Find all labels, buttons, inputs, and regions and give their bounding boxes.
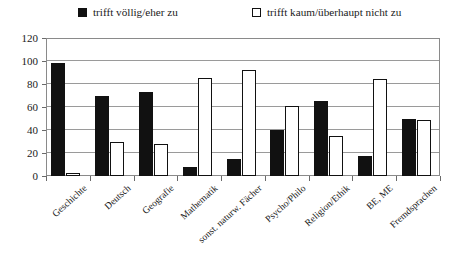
legend-entry-label: trifft völlig/eher zu: [93, 6, 178, 18]
x-tick-mark: [396, 176, 397, 181]
bar-group: [402, 38, 431, 176]
x-tick-label: Religion/Ethik: [303, 183, 352, 228]
x-tick-mark: [46, 176, 47, 181]
bar: [95, 96, 109, 177]
x-tick-mark: [90, 176, 91, 181]
bar: [358, 156, 372, 176]
bar: [227, 159, 241, 176]
y-tick-label: 80: [27, 79, 38, 90]
bar-group: [183, 38, 212, 176]
x-tick-label: Geografie: [141, 183, 176, 216]
chart-legend: trifft völlig/eher zu trifft kaum/überha…: [0, 6, 465, 24]
hollow-square-icon: [252, 8, 261, 17]
bar: [51, 63, 65, 176]
bar-group: [95, 38, 124, 176]
bar: [329, 136, 343, 176]
bar-group: [227, 38, 256, 176]
x-tick-label: BE, ME: [365, 183, 395, 211]
bar: [110, 142, 124, 177]
y-tick-label: 0: [33, 171, 39, 182]
bar: [285, 106, 299, 176]
bar-group: [358, 38, 387, 176]
bar: [139, 92, 153, 176]
legend-entry-trifft-voellig-eher-zu: trifft völlig/eher zu: [78, 6, 178, 18]
x-tick-mark: [221, 176, 222, 181]
x-tick-mark: [177, 176, 178, 181]
chart-figure: trifft völlig/eher zu trifft kaum/überha…: [0, 0, 465, 257]
bar: [242, 70, 256, 176]
bar: [373, 79, 387, 176]
x-tick-label: Geschichte: [50, 183, 88, 219]
x-tick-mark: [440, 176, 441, 181]
bar-group: [314, 38, 343, 176]
y-tick-label: 120: [22, 33, 39, 44]
x-tick-mark: [134, 176, 135, 181]
bar: [417, 120, 431, 176]
bar: [154, 144, 168, 176]
x-tick-label: Deutsch: [102, 183, 132, 211]
bar-group: [270, 38, 299, 176]
bars-layer: [46, 38, 440, 176]
x-tick-label: Mathematik: [179, 183, 220, 221]
y-tick-label: 20: [27, 148, 38, 159]
x-tick-mark: [265, 176, 266, 181]
y-axis: 020406080100120: [0, 0, 46, 200]
legend-entry-trifft-kaum-ueberhaupt-nicht-zu: trifft kaum/überhaupt nicht zu: [252, 6, 401, 18]
bar: [198, 78, 212, 176]
bar: [183, 167, 197, 176]
bar-group: [139, 38, 168, 176]
y-tick-label: 40: [27, 125, 38, 136]
x-tick-mark: [309, 176, 310, 181]
bar: [402, 119, 416, 177]
y-tick-label: 60: [27, 102, 38, 113]
x-tick-mark: [352, 176, 353, 181]
x-axis: GeschichteDeutschGeografieMathematiksons…: [46, 176, 440, 257]
filled-square-icon: [78, 8, 87, 17]
bar: [270, 130, 284, 176]
y-tick-label: 100: [22, 56, 39, 67]
x-tick-label: Fremdsprachen: [388, 183, 439, 230]
bar: [314, 101, 328, 176]
x-tick-label: Psycho/Philo: [263, 183, 307, 224]
legend-entry-label: trifft kaum/überhaupt nicht zu: [267, 6, 401, 18]
bar-group: [51, 38, 80, 176]
